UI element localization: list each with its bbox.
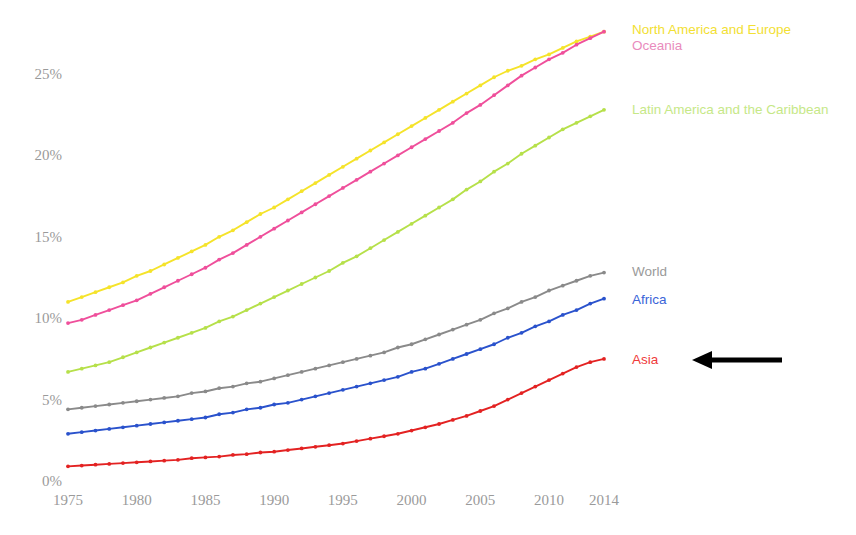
data-point xyxy=(286,448,290,452)
data-point xyxy=(162,263,166,267)
data-point xyxy=(176,279,180,283)
data-point xyxy=(245,381,249,385)
data-point xyxy=(382,378,386,382)
data-point xyxy=(272,227,276,231)
data-point xyxy=(368,149,372,153)
series-label-asia[interactable]: Asia xyxy=(632,352,659,367)
data-point xyxy=(66,300,70,304)
data-point xyxy=(272,206,276,210)
x-axis-tick-1995: 1995 xyxy=(328,492,358,508)
data-point xyxy=(135,350,139,354)
data-point xyxy=(162,285,166,289)
data-point xyxy=(368,354,372,358)
x-axis-tick-2005: 2005 xyxy=(465,492,495,508)
data-point xyxy=(382,350,386,354)
data-point xyxy=(561,284,565,288)
data-point xyxy=(176,336,180,340)
data-point xyxy=(437,333,441,337)
data-point xyxy=(451,100,455,104)
y-axis-tick-25: 25% xyxy=(35,66,63,82)
data-point xyxy=(465,352,469,356)
annotation-pointer-arrow xyxy=(692,351,782,369)
data-point xyxy=(162,420,166,424)
data-point xyxy=(176,394,180,398)
data-point xyxy=(190,456,194,460)
data-point xyxy=(286,219,290,223)
series-label-oceania[interactable]: Oceania xyxy=(632,38,683,53)
data-point xyxy=(162,341,166,345)
data-point xyxy=(368,170,372,174)
data-point xyxy=(410,370,414,374)
data-point xyxy=(410,222,414,226)
y-axis-tick-10: 10% xyxy=(35,310,63,326)
series-asia xyxy=(66,357,606,468)
data-point xyxy=(423,137,427,141)
data-point xyxy=(575,121,579,125)
data-point xyxy=(423,214,427,218)
data-point xyxy=(520,331,524,335)
data-point xyxy=(313,276,317,280)
data-point xyxy=(396,230,400,234)
data-point xyxy=(355,385,359,389)
data-point xyxy=(368,246,372,250)
data-point xyxy=(410,429,414,433)
data-point xyxy=(588,274,592,278)
data-point xyxy=(190,417,194,421)
data-point xyxy=(478,103,482,107)
data-point xyxy=(341,261,345,265)
data-point xyxy=(575,43,579,47)
data-point xyxy=(190,331,194,335)
y-axis-tick-20: 20% xyxy=(35,147,63,163)
data-point xyxy=(575,365,579,369)
data-point xyxy=(478,347,482,351)
line-chart: 0%5%10%15%20%25% 19751980198519901995200… xyxy=(0,0,856,535)
data-point xyxy=(561,313,565,317)
data-point xyxy=(286,373,290,377)
data-point xyxy=(423,367,427,371)
series-label-north-america-and-europe[interactable]: North America and Europe xyxy=(632,22,791,37)
x-axis-tick-2014: 2014 xyxy=(589,492,620,508)
data-point xyxy=(259,302,263,306)
data-point xyxy=(355,357,359,361)
data-point xyxy=(162,459,166,463)
data-point xyxy=(382,162,386,166)
data-point xyxy=(176,419,180,423)
data-point xyxy=(588,36,592,40)
data-point xyxy=(94,463,98,467)
data-point xyxy=(80,430,84,434)
x-axis-tick-1980: 1980 xyxy=(122,492,152,508)
series-label-latin-america-and-the-caribbean[interactable]: Latin America and the Caribbean xyxy=(632,102,829,117)
series-inline-labels: North America and EuropeOceaniaLatin Ame… xyxy=(632,22,829,367)
data-point xyxy=(520,300,524,304)
data-point xyxy=(259,235,263,239)
data-point xyxy=(327,364,331,368)
data-point xyxy=(135,460,139,464)
data-point xyxy=(190,391,194,395)
data-point xyxy=(135,399,139,403)
data-point xyxy=(561,51,565,55)
data-point xyxy=(506,162,510,166)
data-point xyxy=(382,434,386,438)
data-point xyxy=(396,132,400,136)
data-point xyxy=(66,321,70,325)
data-point xyxy=(561,127,565,131)
y-axis-tick-5: 5% xyxy=(42,392,62,408)
data-point xyxy=(602,297,606,301)
data-point xyxy=(382,140,386,144)
data-point xyxy=(437,362,441,366)
data-point xyxy=(162,396,166,400)
data-point xyxy=(217,455,221,459)
series-label-africa[interactable]: Africa xyxy=(632,292,667,307)
data-point xyxy=(492,93,496,97)
data-point xyxy=(327,269,331,273)
data-point xyxy=(190,250,194,254)
series-label-world[interactable]: World xyxy=(632,264,667,279)
data-point xyxy=(80,318,84,322)
data-point xyxy=(94,364,98,368)
data-point xyxy=(149,422,153,426)
data-point xyxy=(94,290,98,294)
data-point xyxy=(149,269,153,273)
data-point xyxy=(561,46,565,50)
data-point xyxy=(149,460,153,464)
series-world xyxy=(66,271,606,412)
